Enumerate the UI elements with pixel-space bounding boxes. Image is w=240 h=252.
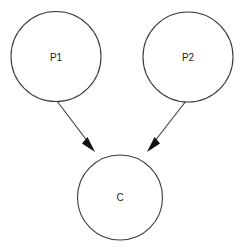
node-p2-label: P2 — [182, 52, 195, 63]
diagram-canvas: P1 P2 C — [0, 0, 240, 252]
node-p1[interactable]: P1 — [11, 12, 101, 102]
node-c-label: C — [116, 192, 123, 203]
arrowhead-icon — [147, 137, 160, 152]
graph-diagram: P1 P2 C — [0, 0, 240, 252]
edge-p2-to-c[interactable] — [147, 101, 186, 152]
node-p2[interactable]: P2 — [143, 12, 233, 102]
arrowhead-icon — [82, 137, 95, 152]
edge-p1-to-c[interactable] — [57, 101, 95, 152]
node-c[interactable]: C — [78, 155, 163, 240]
node-p1-label: P1 — [50, 52, 63, 63]
